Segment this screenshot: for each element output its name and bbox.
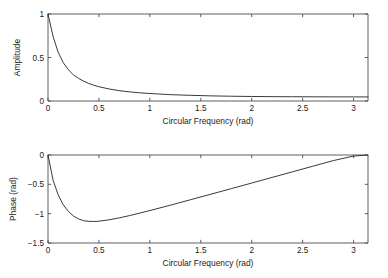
amplitude-axes: [48, 14, 368, 101]
phase-xticklabels: 00.511.522.53: [46, 246, 357, 255]
amplitude-plot-panel: 00.511.522.53 00.51 Circular Frequency (…: [0, 0, 388, 139]
y-tick-label: −0.5: [28, 180, 45, 189]
figure-bode-plot: 00.511.522.53 00.51 Circular Frequency (…: [0, 0, 388, 278]
y-tick-label: 0: [39, 151, 44, 160]
y-tick-label: 0: [39, 97, 44, 106]
phase-yaxis-label: Phase (rad): [8, 177, 18, 221]
phase-curve: [48, 155, 368, 221]
x-tick-label: 1.5: [195, 246, 207, 255]
amplitude-plot-svg: 00.511.522.53 00.51 Circular Frequency (…: [0, 0, 388, 139]
x-tick-label: 2: [249, 104, 254, 113]
phase-axes: [48, 155, 368, 243]
phase-xticks: [48, 155, 354, 243]
phase-axes-box: [48, 155, 368, 243]
amplitude-yaxis-label: Amplitude: [12, 39, 22, 77]
amplitude-curve: [48, 14, 368, 97]
phase-plot-svg: 00.511.522.53 −1.5−1−0.50 Circular Frequ…: [0, 139, 388, 278]
x-tick-label: 1: [148, 104, 153, 113]
x-tick-label: 0.5: [93, 246, 105, 255]
x-tick-label: 0: [46, 246, 51, 255]
phase-plot-panel: 00.511.522.53 −1.5−1−0.50 Circular Frequ…: [0, 139, 388, 278]
amplitude-xticklabels: 00.511.522.53: [46, 104, 357, 113]
x-tick-label: 2: [249, 246, 254, 255]
x-tick-label: 1: [148, 246, 153, 255]
x-tick-label: 2.5: [297, 246, 309, 255]
x-tick-label: 0.5: [93, 104, 105, 113]
y-tick-label: −1: [35, 210, 45, 219]
x-tick-label: 1.5: [195, 104, 207, 113]
amplitude-yticks: [48, 14, 368, 101]
x-tick-label: 2.5: [297, 104, 309, 113]
phase-xaxis-label: Circular Frequency (rad): [163, 258, 254, 268]
phase-yticks: [48, 155, 368, 243]
x-tick-label: 3: [351, 246, 356, 255]
amplitude-xticks: [48, 14, 354, 101]
y-tick-label: 1: [39, 10, 44, 19]
amplitude-yticklabels: 00.51: [33, 10, 45, 106]
x-tick-label: 0: [46, 104, 51, 113]
y-tick-label: 0.5: [33, 54, 45, 63]
phase-yticklabels: −1.5−1−0.50: [28, 151, 45, 248]
amplitude-axes-box: [48, 14, 368, 101]
x-tick-label: 3: [351, 104, 356, 113]
y-tick-label: −1.5: [28, 239, 45, 248]
amplitude-xaxis-label: Circular Frequency (rad): [163, 116, 254, 126]
